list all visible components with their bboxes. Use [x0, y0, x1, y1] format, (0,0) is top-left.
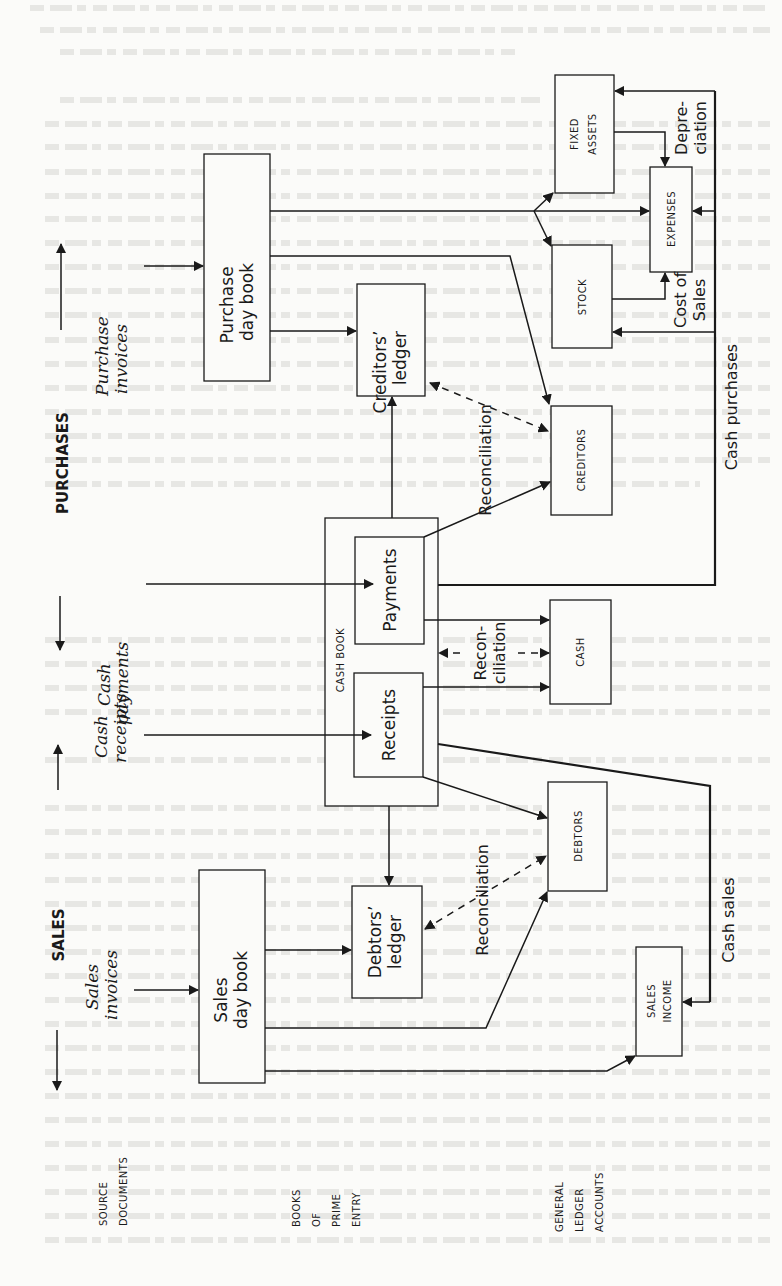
svg-text:FIXED: FIXED [569, 118, 580, 150]
debtors-ledger-box: Debtors’ ledger [352, 886, 422, 998]
svg-text:ciliation: ciliation [490, 622, 509, 685]
creditors-box: CREDITORS [551, 406, 612, 515]
svg-text:Sales: Sales [690, 279, 709, 322]
svg-text:day book: day book [231, 951, 251, 1029]
svg-text:ciation: ciation [691, 101, 710, 155]
svg-text:LEDGER: LEDGER [574, 1188, 585, 1232]
depreciation-label: Depre- ciation [672, 101, 710, 155]
fixed-assets-box: FIXED ASSETS [555, 75, 614, 193]
reconciliation-creditors-label: Reconciliation [476, 404, 495, 516]
svg-text:OF: OF [311, 1212, 322, 1227]
sales-axis: SALES [50, 745, 68, 1090]
arrow-sdb-to-sales-income [265, 1056, 635, 1071]
svg-text:ledger: ledger [390, 331, 410, 385]
accounting-flow-diagram: PURCHASES SALES Purchase invoices Cash p… [0, 0, 782, 1286]
sales-day-book-box: Sales day book [199, 870, 265, 1083]
svg-text:ACCOUNTS: ACCOUNTS [594, 1172, 605, 1232]
svg-text:SOURCE: SOURCE [98, 1182, 109, 1226]
svg-text:DEBTORS: DEBTORS [573, 810, 584, 862]
reconciliation-cash-label: Recon- ciliation [471, 622, 509, 685]
column-label-source-documents: SOURCE DOCUMENTS [98, 1157, 129, 1226]
column-label-general-ledger-accounts: GENERAL LEDGER ACCOUNTS [554, 1172, 605, 1232]
svg-text:STOCK: STOCK [577, 279, 588, 315]
cash-box: CASH [550, 600, 611, 704]
svg-text:DOCUMENTS: DOCUMENTS [118, 1157, 129, 1226]
purchase-invoices-label: Purchase invoices [92, 316, 131, 397]
svg-text:ASSETS: ASSETS [587, 113, 598, 154]
svg-text:Purchase: Purchase [92, 316, 112, 397]
debtors-box: DEBTORS [548, 782, 607, 891]
svg-text:CASH BOOK: CASH BOOK [335, 628, 346, 692]
sales-income-box: SALES INCOME [636, 947, 682, 1056]
svg-text:BOOKS: BOOKS [291, 1189, 302, 1227]
purchase-day-book-box: Purchase day book [204, 154, 270, 381]
arrow-stock-to-expenses [612, 273, 665, 299]
svg-text:PRIME: PRIME [331, 1194, 342, 1227]
creditors-ledger-box: Creditors’ ledger [357, 284, 425, 413]
svg-text:Cost of: Cost of [671, 272, 690, 328]
svg-text:ledger: ledger [385, 915, 405, 969]
svg-text:ENTRY: ENTRY [351, 1192, 362, 1227]
svg-text:Sales: Sales [82, 964, 102, 1010]
purchases-axis-label: PURCHASES [54, 412, 72, 514]
svg-text:CASH: CASH [575, 637, 586, 667]
expenses-box: EXPENSES [650, 167, 692, 272]
svg-text:Sales: Sales [211, 977, 231, 1022]
svg-text:CREDITORS: CREDITORS [576, 429, 587, 492]
purchases-axis: PURCHASES [54, 244, 72, 650]
svg-text:EXPENSES: EXPENSES [666, 191, 677, 247]
receipts-box: Receipts [354, 673, 423, 777]
svg-text:INCOME: INCOME [662, 979, 673, 1022]
cash-purchases-label: Cash purchases [722, 344, 741, 470]
svg-text:Depre-: Depre- [672, 101, 691, 155]
svg-text:invoices: invoices [111, 324, 131, 394]
svg-text:SALES: SALES [646, 984, 657, 1018]
svg-text:GENERAL: GENERAL [554, 1182, 565, 1232]
arrow-receipts-to-debtors [423, 777, 547, 818]
svg-text:Receipts: Receipts [379, 689, 399, 761]
payments-box: Payments [355, 537, 424, 644]
cash-sales-label: Cash sales [719, 877, 738, 962]
stock-box: STOCK [552, 245, 612, 348]
svg-text:Cash: Cash [91, 715, 111, 758]
column-label-books-of-prime-entry: BOOKS OF PRIME ENTRY [291, 1189, 362, 1227]
svg-text:Payments: Payments [380, 548, 400, 631]
svg-text:day book: day book [237, 263, 257, 341]
svg-text:Debtors’: Debtors’ [365, 906, 385, 979]
svg-text:Purchase: Purchase [217, 266, 237, 343]
sales-invoices-label: Sales invoices [82, 950, 121, 1020]
svg-text:Creditors’: Creditors’ [370, 331, 390, 414]
cost-of-sales-label: Cost of Sales [671, 272, 709, 328]
svg-text:Recon-: Recon- [471, 626, 490, 681]
sales-axis-label: SALES [50, 908, 68, 961]
arrow-fixed-assets-to-expenses [614, 132, 665, 166]
svg-text:receipts: receipts [110, 693, 130, 763]
reconciliation-debtors-label: Reconciliation [473, 844, 492, 956]
svg-text:invoices: invoices [101, 950, 121, 1020]
